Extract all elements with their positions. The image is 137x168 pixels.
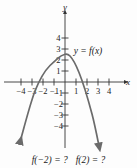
x-tick-label: 4 [107, 86, 112, 96]
y-tick-label: 1 [56, 66, 60, 76]
y-tick-label: −2 [54, 99, 63, 109]
x-tick-label: 3 [96, 86, 100, 96]
caption: f(−2) = ? f(2) = ? [0, 152, 137, 168]
caption-question-1: f(−2) = ? [32, 155, 68, 165]
y-axis-label: y [62, 2, 67, 12]
x-tick-labels: −4 −3 −2 −1 1 2 3 4 [16, 86, 111, 96]
x-tick-label: −2 [38, 86, 47, 96]
y-tick-label: 4 [56, 33, 61, 43]
coordinate-plot: x y −4 −3 −2 −1 1 2 3 4 [0, 0, 137, 152]
y-tick-label: 3 [56, 44, 60, 54]
x-axis-label: x [125, 77, 130, 87]
caption-question-2: f(2) = ? [76, 155, 106, 165]
curve-equation-label: y = f(x) [73, 46, 103, 57]
y-tick-label: −4 [54, 121, 64, 131]
y-tick-label: −1 [54, 88, 63, 98]
y-tick-label: −3 [54, 110, 63, 120]
x-tick-label: −4 [16, 86, 26, 96]
graph-figure: x y −4 −3 −2 −1 1 2 3 4 [0, 0, 137, 168]
x-tick-label: 1 [74, 86, 78, 96]
